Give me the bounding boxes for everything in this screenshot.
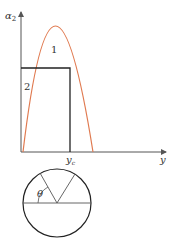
curve-1-label: 1 [51, 44, 57, 55]
x-axis-label: y [159, 154, 166, 165]
diagram-canvas: α2 1 2 yc y θ [0, 0, 177, 249]
y-axis-label: α2 [5, 10, 16, 23]
x-tick-label: yc [65, 154, 76, 166]
parabola-curve-1 [23, 26, 93, 152]
radius-right [57, 174, 75, 203]
curve-2-label: 2 [24, 81, 30, 92]
angle-label: θ [37, 188, 43, 199]
